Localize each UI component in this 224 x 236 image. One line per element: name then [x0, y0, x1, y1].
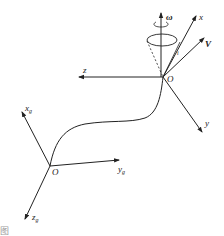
angle-label: i: [177, 50, 179, 56]
cone-ellipse: [147, 34, 177, 46]
y-axis: [163, 77, 202, 132]
yg-axis: [50, 160, 119, 166]
ground-origin-label: O: [52, 167, 59, 177]
xg-axis: [22, 112, 50, 166]
zg-axis-label: zg: [31, 212, 39, 223]
body-frame: ω x V i z y O: [79, 12, 212, 132]
ground-frame: xg yg zg O: [22, 103, 125, 223]
z-axis-label: z: [82, 65, 87, 75]
frames-diagram: ω x V i z y O xg yg zg O: [0, 0, 224, 236]
zg-axis: [25, 166, 50, 219]
trajectory-curve: [50, 77, 163, 166]
body-origin-label: O: [167, 74, 174, 84]
velocity-label: V: [205, 39, 212, 49]
x-axis-label: x: [198, 12, 203, 22]
yg-axis-label: yg: [117, 164, 125, 175]
xg-axis-label: xg: [24, 103, 32, 114]
figure-caption: 图: [0, 226, 224, 236]
velocity-vector: [163, 38, 204, 77]
omega-label: ω: [166, 12, 173, 22]
y-axis-label: y: [204, 118, 209, 128]
